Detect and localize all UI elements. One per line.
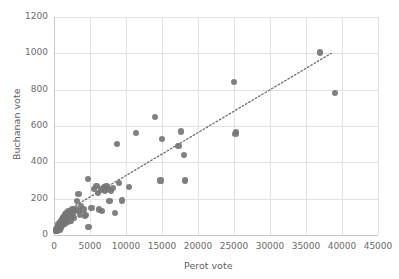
data-point [159,136,165,142]
data-point [157,177,163,183]
data-point [85,176,91,182]
trendline [0,0,399,279]
data-point [126,184,132,190]
data-point [110,185,116,191]
data-point [85,224,91,230]
scatter-chart: 020040060080010001200 050001000015000200… [0,0,399,279]
x-axis-title: Perot vote [184,260,233,271]
data-point [182,177,188,183]
y-axis-title: Buchanan vote [11,89,22,161]
data-point [88,205,94,211]
data-point [106,198,112,204]
data-point [114,141,120,147]
data-point [317,49,323,55]
data-point [178,128,184,134]
data-point [175,143,181,149]
data-point [119,197,125,203]
data-point [75,191,81,197]
